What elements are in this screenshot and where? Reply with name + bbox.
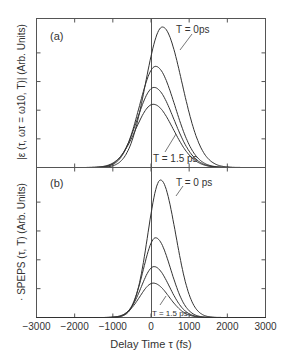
annot-leader-a-top xyxy=(180,34,192,50)
panel-a: (a) T = 0ps T = 1.5 ps xyxy=(37,19,266,168)
panel-a-label: (a) xyxy=(50,30,63,42)
x-tick-label: 3000 xyxy=(254,321,277,332)
annot-b-top: T = 0 ps xyxy=(176,177,212,188)
x-tick-label: 0 xyxy=(148,321,154,332)
annot-a-top: T = 0ps xyxy=(176,24,209,35)
x-tick-label: −2000 xyxy=(61,321,90,332)
x-axis-label: Delay Time τ (fs) xyxy=(110,338,191,350)
y-axis-label-b: · SPEPS (τ, T) (Arb. Units) xyxy=(16,183,27,301)
x-tick-label: 1000 xyxy=(178,321,201,332)
panel-b: (b) T = 0 ps T = 1.5 ps xyxy=(37,168,266,319)
annot-b-bottom: T = 1.5 ps xyxy=(152,309,188,318)
x-tick-labels: −3000−2000−10000100020003000 xyxy=(22,321,277,332)
annot-a-bottom: T = 1.5 ps xyxy=(153,153,198,164)
x-tick-label: −3000 xyxy=(22,321,51,332)
x-tick-label: 2000 xyxy=(216,321,239,332)
annot-leader-b-bottom xyxy=(160,296,166,305)
y-axis-label-a: |ε (τ, ωτ = ω10, T)| (Arb. Units) xyxy=(16,24,27,160)
annot-leader-a-bottom xyxy=(165,134,176,152)
x-tick-label: −1000 xyxy=(99,321,128,332)
figure: (a) T = 0ps T = 1.5 ps (b) T = 0 ps T = … xyxy=(0,0,286,361)
panel-b-label: (b) xyxy=(50,177,63,189)
